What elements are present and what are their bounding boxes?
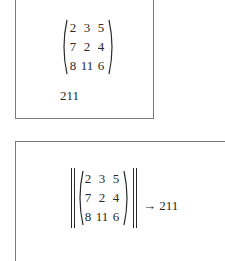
right-paren-icon <box>123 170 131 226</box>
matrix: 2 3 5 7 2 4 8 11 6 <box>81 169 123 226</box>
matrix-entry: 5 <box>94 18 108 37</box>
matrix-entry: 2 <box>80 37 94 56</box>
matrix-entry: 3 <box>80 18 94 37</box>
matrix: 2 3 5 7 2 4 8 11 6 <box>66 18 108 75</box>
matrix-entry: 8 <box>66 56 80 75</box>
matrix-entry: 4 <box>109 188 123 207</box>
matrix-entry: 2 <box>95 188 109 207</box>
matrix-entry: 6 <box>109 207 123 226</box>
matrix-entry: 4 <box>94 37 108 56</box>
right-paren-icon <box>108 19 116 75</box>
result-line: → 211 <box>143 198 178 214</box>
matrix-entry: 11 <box>95 207 109 226</box>
matrix-entry: 8 <box>81 207 95 226</box>
matrix-entry: 6 <box>94 56 108 75</box>
determinant-bar-right <box>133 168 134 228</box>
matrix-entry: 3 <box>95 169 109 188</box>
matrix-entry: 7 <box>66 37 80 56</box>
matrix-entry: 5 <box>109 169 123 188</box>
matrix-entry: 7 <box>81 188 95 207</box>
matrix-entry: 2 <box>66 18 80 37</box>
arrow-icon: → <box>143 198 156 213</box>
matrix-entry: 11 <box>80 56 94 75</box>
matrix-entry: 2 <box>81 169 95 188</box>
output-value: 211 <box>60 88 79 104</box>
determinant-bar-left <box>71 168 72 228</box>
input-cell[interactable]: 2 3 5 7 2 4 8 11 6 211 <box>15 0 154 119</box>
output-cell[interactable]: 2 3 5 7 2 4 8 11 6 → 211 <box>15 141 225 261</box>
result-value: 211 <box>159 198 178 213</box>
determinant-bar-left-inner <box>74 168 75 228</box>
determinant-bar-right-inner <box>136 168 137 228</box>
